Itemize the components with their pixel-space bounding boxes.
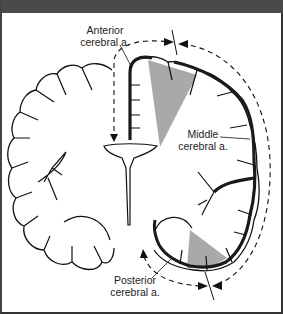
left-hemisphere-outline [8, 64, 114, 270]
ventricle [104, 144, 157, 225]
posterior-cerebral-artery[interactable] [154, 220, 190, 266]
right-hippocampal-fissure [155, 217, 192, 230]
label-middle-cerebral: Middle cerebral a. [172, 128, 234, 152]
anterior-leader-line [120, 45, 132, 68]
arrowhead-right-bottom [198, 282, 208, 290]
arrowhead-left-top [178, 40, 188, 48]
middle-cerebral-artery-branch[interactable] [214, 178, 254, 192]
left-hippocampal-fissure [64, 216, 110, 240]
arrowhead-down [110, 134, 118, 142]
arrowhead-up [140, 249, 148, 258]
label-posterior-cerebral: Posterior cerebral a. [104, 274, 166, 298]
label-anterior-cerebral: Anterior cerebral a. [73, 24, 137, 48]
label-middle-line1: Middle [172, 128, 234, 140]
label-posterior-line2: cerebral a. [104, 286, 166, 298]
label-posterior-line1: Posterior [104, 274, 166, 286]
right-sylvian-fissure [198, 172, 214, 215]
arrowhead-left-bottom [212, 281, 222, 290]
label-anterior-line1: Anterior [73, 24, 137, 36]
arrowhead-right-top [164, 38, 174, 46]
label-anterior-line2: cerebral a. [73, 36, 137, 48]
brain-diagram [2, 0, 283, 314]
left-sylvian-fissure [38, 152, 66, 200]
label-middle-line2: cerebral a. [172, 140, 234, 152]
figure-frame: Anterior cerebral a. Middle cerebral a. … [0, 0, 283, 314]
